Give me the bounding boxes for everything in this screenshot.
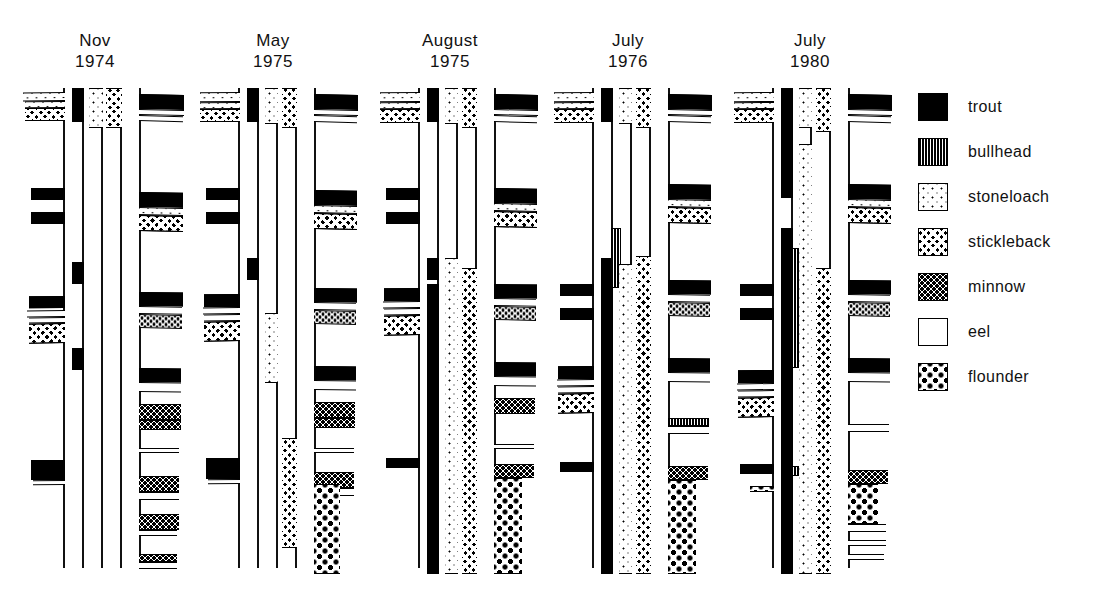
legend-item-bullhead: bullhead xyxy=(918,129,1088,174)
species-band-minnow xyxy=(314,418,355,428)
species-band-minnow xyxy=(494,398,535,414)
stoneloach-swatch-icon xyxy=(918,183,948,211)
legend-item-minnow: minnow xyxy=(918,264,1088,309)
flounder-swatch-icon xyxy=(918,363,948,391)
species-band-trout xyxy=(314,288,357,303)
species-band-eel xyxy=(494,444,534,449)
species-band-trout xyxy=(247,88,259,122)
species-band-stickleback xyxy=(734,109,774,123)
species-band-stickleback xyxy=(554,109,594,123)
species-band-trout xyxy=(31,469,65,480)
species-band-eel xyxy=(848,524,886,532)
species-band-bullhead xyxy=(668,418,709,426)
species-band-stickleback xyxy=(204,321,240,342)
legend-item-trout: trout xyxy=(918,84,1088,129)
legend-item-stoneloach: stoneloach xyxy=(918,174,1088,219)
bullhead-swatch-icon xyxy=(918,138,948,166)
species-band-trout xyxy=(560,462,594,472)
species-band-stickleback xyxy=(462,88,477,128)
minnow-swatch-icon xyxy=(918,273,948,301)
plot-area xyxy=(178,88,368,568)
species-band-eel xyxy=(139,562,177,569)
panel-july-1976: July1976 xyxy=(530,0,726,604)
species-band-trout xyxy=(139,192,183,208)
species-band-minnow xyxy=(668,466,708,480)
species-band-trout xyxy=(139,292,183,307)
species-band-flounder xyxy=(314,484,340,574)
species-band-stickleback xyxy=(816,268,831,574)
species-band-stoneloach xyxy=(380,92,420,102)
species-band-trout xyxy=(848,358,890,372)
panel-month: July xyxy=(710,30,910,51)
species-band-stoneloach xyxy=(445,88,458,124)
panel-title: Nov1974 xyxy=(0,30,190,72)
species-band-stoneloach xyxy=(89,88,103,128)
panel-year: 1975 xyxy=(352,51,548,72)
station-axis-3 xyxy=(101,88,103,568)
species-band-eel xyxy=(668,426,709,434)
eel-swatch-icon xyxy=(918,318,948,346)
species-band-eel xyxy=(314,380,356,391)
species-band-minnow xyxy=(139,314,182,329)
panel-nov-1974: Nov1974 xyxy=(0,0,190,604)
panel-year: 1980 xyxy=(710,51,910,72)
species-band-eel xyxy=(848,372,890,383)
species-band-stoneloach xyxy=(619,88,632,124)
species-band-trout xyxy=(560,308,594,320)
species-band-trout xyxy=(668,280,711,295)
species-band-stickleback xyxy=(25,108,65,121)
legend-item-flounder: flounder xyxy=(918,354,1088,399)
species-band-flounder xyxy=(750,486,774,492)
species-band-trout xyxy=(31,188,65,200)
plot-area xyxy=(0,88,190,568)
species-band-eel xyxy=(848,540,886,546)
species-band-stickleback xyxy=(380,109,420,123)
species-band-flounder xyxy=(668,480,696,574)
trout-swatch-icon xyxy=(918,93,948,121)
species-band-minnow xyxy=(494,464,534,478)
species-band-trout xyxy=(560,284,594,296)
station-axis-1 xyxy=(772,88,774,568)
station-axis-1 xyxy=(592,88,594,568)
species-band-trout xyxy=(314,190,357,206)
species-band-trout xyxy=(72,348,84,370)
species-band-stoneloach xyxy=(445,258,458,574)
species-band-eel xyxy=(208,479,240,484)
legend-label: flounder xyxy=(968,368,1029,386)
species-band-eel xyxy=(668,372,710,383)
species-band-trout xyxy=(668,184,711,200)
species-band-trout xyxy=(738,370,774,383)
species-band-trout xyxy=(206,468,240,479)
species-band-minnow xyxy=(668,302,710,317)
species-band-stickleback xyxy=(139,215,183,232)
species-band-trout xyxy=(31,460,65,469)
species-band-minnow xyxy=(139,514,179,530)
species-band-trout xyxy=(31,212,65,224)
species-band-stoneloach xyxy=(554,92,594,102)
species-band-trout xyxy=(558,366,594,379)
legend-label: bullhead xyxy=(968,143,1032,161)
species-band-stickleback xyxy=(106,88,122,128)
panel-title: July1976 xyxy=(530,30,726,72)
species-band-stoneloach xyxy=(200,92,240,102)
species-band-trout xyxy=(386,188,420,200)
species-band-stickleback xyxy=(462,268,477,574)
panel-july-1980: July1980 xyxy=(710,0,910,604)
species-band-eel xyxy=(139,382,181,393)
legend-label: stickleback xyxy=(968,233,1051,251)
species-band-minnow xyxy=(139,404,181,420)
species-band-minnow xyxy=(139,420,181,430)
species-band-stoneloach xyxy=(23,92,65,101)
species-band-trout xyxy=(848,184,891,200)
species-band-trout xyxy=(848,280,891,295)
panel-year: 1974 xyxy=(0,51,190,72)
species-band-trout xyxy=(668,94,712,110)
species-band-minnow xyxy=(314,402,355,418)
plot-area xyxy=(710,88,910,568)
species-band-trout xyxy=(206,212,240,224)
species-band-eel xyxy=(668,115,711,123)
species-band-trout xyxy=(314,366,356,380)
legend-label: trout xyxy=(968,98,1002,116)
panel-month: May xyxy=(178,30,368,51)
species-band-trout xyxy=(848,94,892,110)
